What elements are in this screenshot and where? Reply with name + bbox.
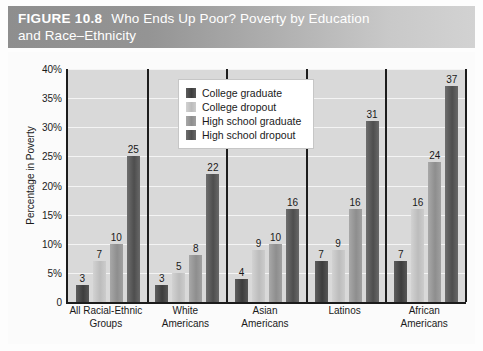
legend-item: College graduate — [186, 86, 301, 99]
x-axis-label-line: Americans — [225, 318, 305, 331]
bar — [332, 250, 345, 302]
bar-value-label: 9 — [325, 238, 351, 249]
x-axis-label: AsianAmericans — [225, 305, 305, 330]
figure-root: FIGURE 10.8Who Ends Up Poor? Poverty by … — [0, 0, 483, 351]
bar — [428, 162, 441, 302]
bar-value-label: 8 — [183, 243, 209, 254]
chart-legend: College graduateCollege dropoutHigh scho… — [178, 79, 314, 149]
bar — [252, 250, 265, 302]
y-axis-tick-5: 5% — [48, 267, 62, 278]
x-axis-label: WhiteAmericans — [146, 305, 226, 330]
x-axis-label: AfricanAmericans — [384, 305, 464, 330]
bar-value-label: 7 — [308, 249, 334, 260]
figure-title-line2: and Race–Ethnicity — [18, 28, 136, 43]
bar — [315, 261, 328, 302]
y-axis-tick-40: 40% — [42, 64, 62, 75]
x-axis-label-line: All Racial-Ethnic — [66, 305, 146, 318]
bar-value-label: 10 — [262, 232, 288, 243]
bar-value-label: 5 — [166, 261, 192, 272]
bar-value-label: 37 — [439, 74, 465, 85]
group-separator — [465, 69, 467, 302]
y-axis-tick-20: 20% — [42, 180, 62, 191]
y-axis-tick-25: 25% — [42, 151, 62, 162]
bar — [189, 255, 202, 302]
bar-value-label: 7 — [388, 249, 414, 260]
bar-value-label: 16 — [279, 197, 305, 208]
bar — [235, 279, 248, 302]
x-axis-label: Latinos — [305, 305, 385, 318]
legend-item: High school graduate — [186, 114, 301, 127]
x-axis-category-labels: All Racial-EthnicGroupsWhiteAmericansAsi… — [66, 305, 464, 341]
chart-area: Percentage in Poverty 05%10%15%20%25%30%… — [8, 52, 475, 344]
x-axis-label-line: Americans — [146, 318, 226, 331]
y-axis-tick-0: 0 — [56, 297, 62, 308]
bar-value-label: 10 — [103, 232, 129, 243]
bar-value-label: 7 — [86, 249, 112, 260]
bar-value-label: 16 — [405, 197, 431, 208]
legend-label: College dropout — [202, 101, 276, 113]
legend-swatch-icon — [186, 102, 196, 112]
bar — [155, 285, 168, 302]
legend-label: High school dropout — [202, 129, 295, 141]
x-axis-label-line: Latinos — [305, 305, 385, 318]
x-axis-label-line: African — [384, 305, 464, 318]
figure-title: FIGURE 10.8Who Ends Up Poor? Poverty by … — [18, 10, 465, 44]
figure-title-banner: FIGURE 10.8Who Ends Up Poor? Poverty by … — [8, 6, 475, 48]
x-axis-label: All Racial-EthnicGroups — [66, 305, 146, 330]
bar — [93, 261, 106, 302]
bar-value-label: 16 — [342, 197, 368, 208]
y-axis-tick-35: 35% — [42, 93, 62, 104]
y-axis-tick-10: 10% — [42, 238, 62, 249]
legend-item: High school dropout — [186, 128, 301, 141]
bar — [127, 156, 140, 302]
bar — [172, 273, 185, 302]
bar-group: 791631 — [307, 69, 387, 302]
x-axis-label-line: Americans — [384, 318, 464, 331]
y-axis-tick-15: 15% — [42, 209, 62, 220]
bar-group: 7162437 — [386, 69, 466, 302]
bar — [286, 209, 299, 302]
bar-group: 371025 — [68, 69, 148, 302]
bar-value-label: 4 — [228, 267, 254, 278]
legend-label: High school graduate — [202, 115, 301, 127]
legend-swatch-icon — [186, 116, 196, 126]
x-axis-label-line: Asian — [225, 305, 305, 318]
bar — [206, 174, 219, 302]
x-axis-label-line: Groups — [66, 318, 146, 331]
x-axis-label-line: White — [146, 305, 226, 318]
legend-swatch-icon — [186, 88, 196, 98]
y-axis-tick-30: 30% — [42, 122, 62, 133]
bar-value-label: 22 — [200, 162, 226, 173]
bar — [269, 244, 282, 302]
legend-item: College dropout — [186, 100, 301, 113]
legend-label: College graduate — [202, 87, 282, 99]
legend-swatch-icon — [186, 130, 196, 140]
figure-number: FIGURE 10.8 — [18, 11, 102, 26]
bar — [349, 209, 362, 302]
bar — [76, 285, 89, 302]
bar — [366, 121, 379, 302]
y-axis-tick-labels: 05%10%15%20%25%30%35%40% — [22, 69, 62, 302]
bar-value-label: 24 — [422, 150, 448, 161]
bar — [394, 261, 407, 302]
bar — [445, 86, 458, 302]
bar-value-label: 25 — [120, 144, 146, 155]
figure-title-line1: Who Ends Up Poor? Poverty by Education — [111, 11, 369, 26]
bar-value-label: 3 — [69, 273, 95, 284]
bar — [110, 244, 123, 302]
bar-value-label: 31 — [359, 109, 385, 120]
bar — [411, 209, 424, 302]
bar-value-label: 3 — [149, 273, 175, 284]
